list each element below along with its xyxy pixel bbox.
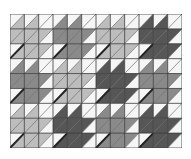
quilt-cell [168,103,182,118]
quilt-cell [96,103,110,118]
quilt-cell [153,59,167,74]
quilt-cell [39,88,53,103]
quilt-cell [10,44,24,59]
quilt-cell [10,59,24,74]
quilt-cell [110,103,124,118]
quilt-cell [139,29,153,44]
quilt-svg [10,14,182,148]
quilt-cell [10,29,24,44]
quilt-cell [96,14,110,29]
quilt-cell [82,59,96,74]
quilt-cell [139,88,153,103]
quilt-cell [67,133,81,148]
quilt-cell [67,44,81,59]
quilt-cell [82,74,96,89]
quilt-cell [39,14,53,29]
quilt-cell [53,44,67,59]
quilt-cell [10,133,24,148]
quilt-cell [139,133,153,148]
quilt-cell [125,59,139,74]
quilt-cell [96,133,110,148]
quilt-cell [153,103,167,118]
quilt-cell [96,29,110,44]
quilt-cell [125,118,139,133]
quilt-cell [39,29,53,44]
quilt-cell [168,88,182,103]
quilt-cell [153,14,167,29]
quilt-cell [139,103,153,118]
quilt-cell [39,118,53,133]
quilt-cell [110,44,124,59]
quilt-cell [110,29,124,44]
quilt-cell [139,59,153,74]
quilt-cell [67,14,81,29]
quilt-cell [82,118,96,133]
quilt-cell [168,14,182,29]
quilt-cell [139,44,153,59]
quilt-cell [39,133,53,148]
quilt-cell [96,74,110,89]
quilt-cell [153,29,167,44]
quilt-cell [168,29,182,44]
quilt-cell [24,133,38,148]
quilt-cell [53,103,67,118]
quilt-cell [110,133,124,148]
quilt-cell [53,59,67,74]
quilt-cell [39,59,53,74]
quilt-cell [67,74,81,89]
quilt-cell [10,118,24,133]
quilt-cell [110,74,124,89]
quilt-cell [168,118,182,133]
quilt-cell [67,103,81,118]
quilt-cell [10,103,24,118]
quilt-cell [125,29,139,44]
quilt-cell [139,74,153,89]
quilt-cell [110,14,124,29]
quilt-cell [39,74,53,89]
quilt-cell [24,118,38,133]
quilt-cell [125,103,139,118]
quilt-cell [125,133,139,148]
quilt-cell [110,59,124,74]
quilt-cell [125,74,139,89]
quilt-cell [82,103,96,118]
quilt-cell [82,14,96,29]
quilt-cell [139,14,153,29]
quilt-cell [39,103,53,118]
quilt-cell [168,133,182,148]
quilt-cell [82,133,96,148]
quilt-cell [67,29,81,44]
quilt-cell [53,74,67,89]
quilt-cell [153,88,167,103]
quilt-cell [168,74,182,89]
quilt-cell [24,59,38,74]
quilt-cell [10,74,24,89]
quilt-cell [110,118,124,133]
quilt-cell [24,88,38,103]
quilt-cell [10,88,24,103]
quilt-cell [24,74,38,89]
quilt-cell [24,103,38,118]
quilt-cell [96,59,110,74]
quilt-cell [125,88,139,103]
quilt-cell [67,88,81,103]
quilt-cell [53,14,67,29]
quilt-cell [96,44,110,59]
quilt-cell [53,133,67,148]
quilt-cell [125,44,139,59]
quilt-cell [24,44,38,59]
quilt-cell [24,29,38,44]
quilt-cell [53,29,67,44]
quilt-cell [153,74,167,89]
houndstooth-quilt-grid [10,14,182,148]
quilt-cell [53,88,67,103]
quilt-cell [168,44,182,59]
quilt-cell [67,59,81,74]
quilt-cell [10,14,24,29]
quilt-cell [153,118,167,133]
quilt-cell [53,118,67,133]
quilt-cell [82,44,96,59]
quilt-cell [96,118,110,133]
quilt-cell [82,29,96,44]
quilt-cell [168,59,182,74]
